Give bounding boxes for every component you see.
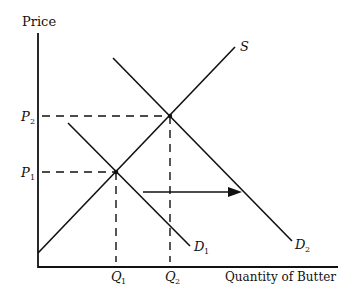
supply-label: S xyxy=(240,39,249,54)
demand-curve-d1 xyxy=(68,123,190,246)
supply-curve xyxy=(38,47,235,253)
equilibrium-point-2 xyxy=(168,114,172,118)
supply-demand-diagram: Price Quantity of Butter S D 1 D 2 P 2 P… xyxy=(0,0,355,298)
p1-subscript: 1 xyxy=(30,173,35,182)
q1-subscript: 1 xyxy=(121,277,126,286)
p1-label: P xyxy=(20,165,30,180)
x-axis-label: Quantity of Butter xyxy=(225,270,336,284)
d2-subscript: 2 xyxy=(305,245,310,254)
demand-curve-d2 xyxy=(113,58,292,241)
y-axis-label: Price xyxy=(22,14,56,29)
q2-subscript: 2 xyxy=(175,277,180,286)
equilibrium-point-1 xyxy=(114,170,118,174)
p2-subscript: 2 xyxy=(30,117,35,126)
p2-label: P xyxy=(20,109,30,124)
d1-subscript: 1 xyxy=(204,247,209,256)
